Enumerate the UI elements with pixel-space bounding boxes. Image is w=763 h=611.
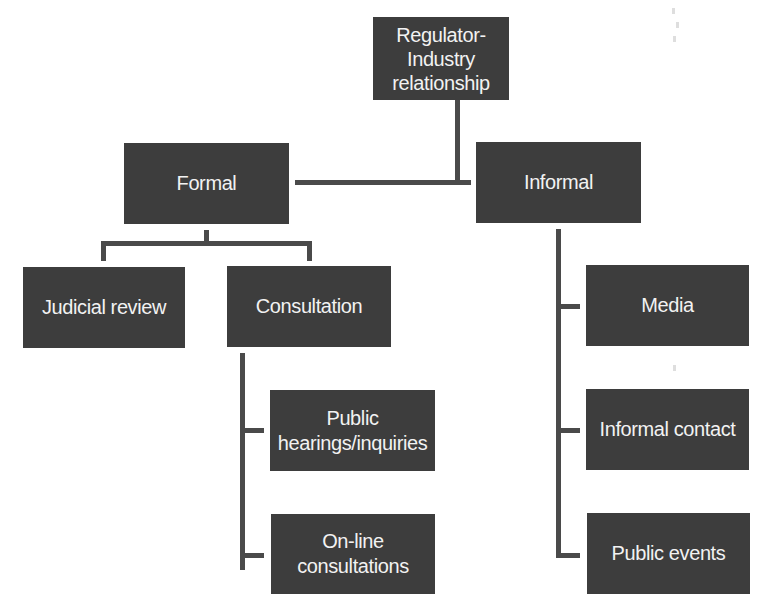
connector-formal-children-bar bbox=[101, 241, 312, 246]
scan-artifact bbox=[673, 36, 676, 42]
connector-to-informal-contact bbox=[556, 428, 580, 433]
connector-formal-informal bbox=[295, 180, 471, 185]
node-regulator-industry-relationship: Regulator- Industry relationship bbox=[373, 17, 509, 100]
connector-informal-spine bbox=[556, 229, 561, 558]
connector-to-public-hearings bbox=[240, 428, 264, 433]
node-formal: Formal bbox=[124, 143, 289, 224]
node-public-hearings-inquiries: Public hearings/inquiries bbox=[270, 390, 435, 471]
scan-artifact bbox=[676, 22, 679, 28]
node-informal-contact: Informal contact bbox=[586, 389, 749, 470]
connector-to-consultation bbox=[307, 241, 312, 261]
connector-root-down bbox=[455, 100, 460, 184]
node-media: Media bbox=[586, 265, 749, 346]
node-consultation: Consultation bbox=[227, 266, 391, 347]
node-online-consultations: On-line consultations bbox=[271, 514, 435, 594]
scan-artifact bbox=[672, 8, 675, 14]
node-informal: Informal bbox=[476, 142, 641, 223]
connector-to-media bbox=[556, 304, 580, 309]
scan-artifact bbox=[673, 365, 676, 371]
node-judicial-review: Judicial review bbox=[23, 267, 185, 348]
connector-to-public-events bbox=[556, 553, 580, 558]
connector-consultation-spine bbox=[240, 353, 245, 570]
node-public-events: Public events bbox=[587, 513, 750, 594]
connector-to-judicial bbox=[101, 241, 106, 261]
connector-to-online-consultations bbox=[240, 553, 264, 558]
